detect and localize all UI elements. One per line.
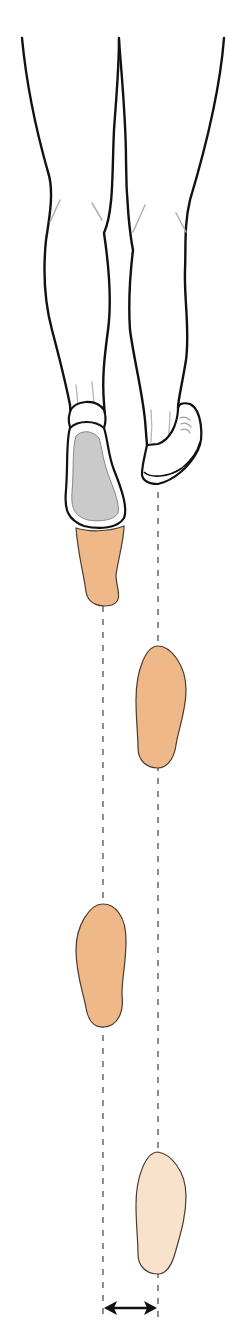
knee-crease-icon <box>133 205 145 232</box>
legs <box>22 38 224 445</box>
knee-crease-icon <box>176 213 186 232</box>
left-shoe <box>66 402 126 528</box>
right-leg-inner-contour <box>119 40 147 445</box>
knee-creases <box>50 200 186 232</box>
step-width-arrow <box>104 1301 157 1315</box>
footprint-right-2 <box>136 1152 186 1274</box>
gait-illustration <box>0 0 228 1322</box>
footprint-left-2 <box>76 904 126 1027</box>
knee-crease-icon <box>92 203 102 220</box>
footprint-left-1 <box>76 526 124 606</box>
left-leg-outer-contour <box>22 38 71 420</box>
left-leg-inner-contour <box>103 38 119 418</box>
footprint-right-1 <box>136 646 186 768</box>
